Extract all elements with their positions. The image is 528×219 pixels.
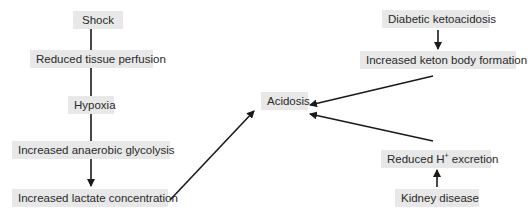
label-pre: Reduced H bbox=[387, 153, 445, 165]
arrow-hexcretion-to-acidosis bbox=[310, 114, 433, 141]
node-shock: Shock bbox=[73, 11, 123, 29]
label-post: excretion bbox=[449, 153, 499, 165]
node-diabetic-ketoacidosis: Diabetic ketoacidosis bbox=[382, 10, 489, 28]
node-increased-lactate-concentration: Increased lactate concentration bbox=[12, 189, 168, 207]
node-acidosis: Acidosis bbox=[261, 92, 308, 110]
node-kidney-disease: Kidney disease bbox=[395, 189, 479, 207]
acidosis-causes-diagram: Shock Reduced tissue perfusion Hypoxia I… bbox=[0, 0, 528, 219]
node-increased-keton-body-formation: Increased keton body formation bbox=[360, 51, 516, 69]
node-reduced-h-excretion: Reduced H+ excretion bbox=[381, 150, 491, 168]
arrow-lactate-to-acidosis bbox=[170, 111, 254, 200]
node-hypoxia: Hypoxia bbox=[68, 96, 114, 114]
arrow-keton-to-acidosis bbox=[310, 76, 433, 105]
node-increased-anaerobic-glycolysis: Increased anaerobic glycolysis bbox=[12, 141, 170, 159]
node-reduced-tissue-perfusion: Reduced tissue perfusion bbox=[30, 50, 153, 68]
